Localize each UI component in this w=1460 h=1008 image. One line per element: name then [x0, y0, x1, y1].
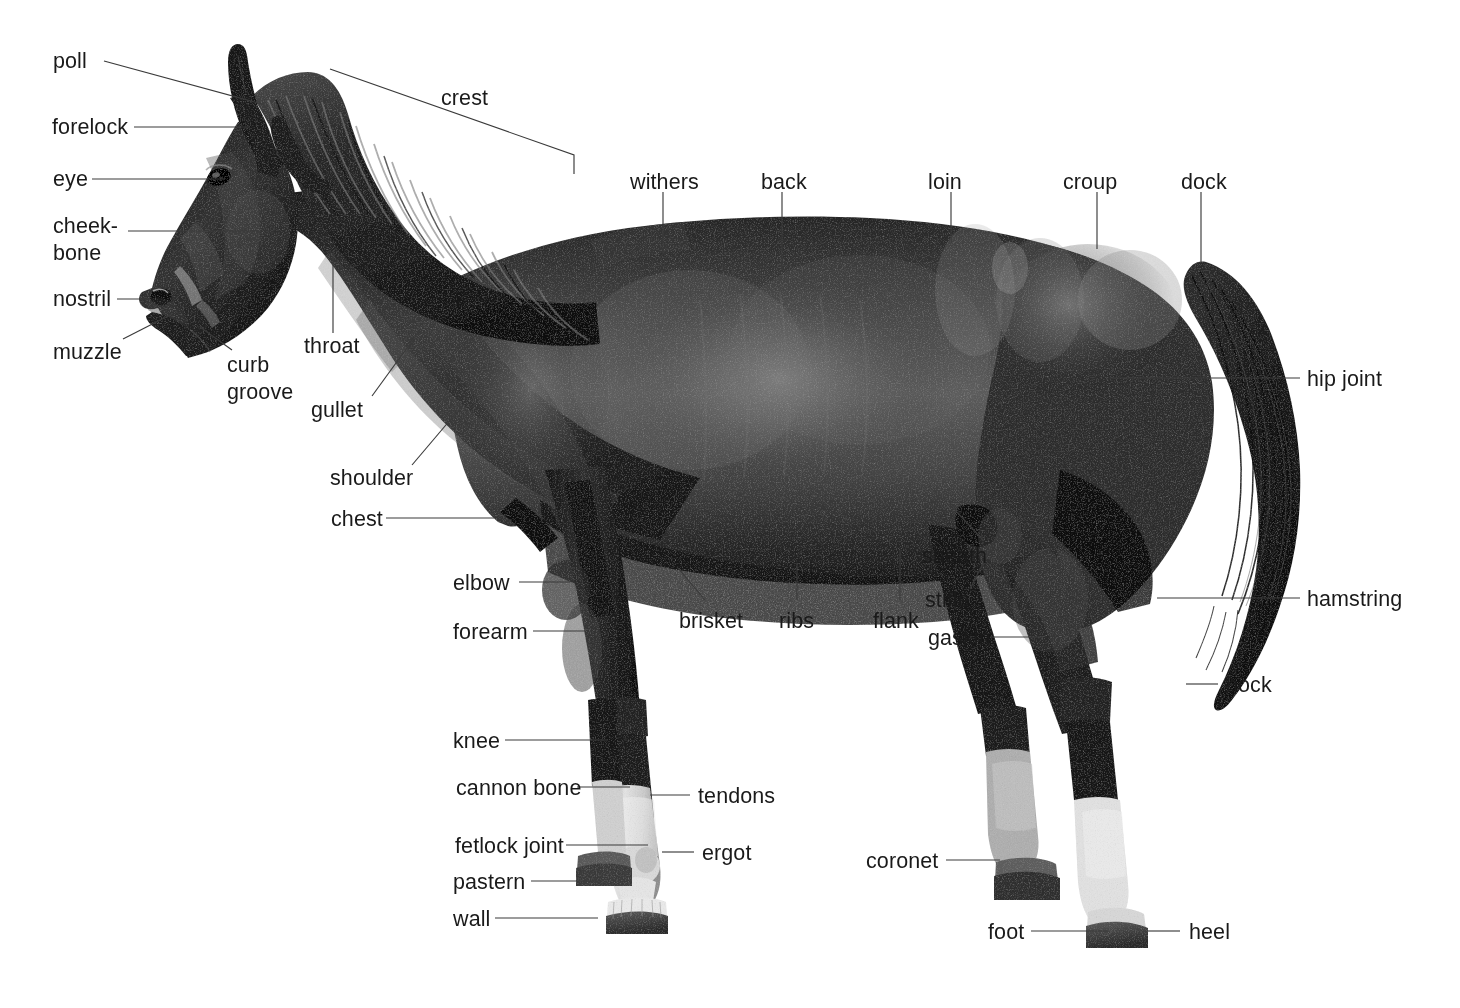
eye	[205, 166, 233, 189]
leader-muzzle	[123, 314, 172, 339]
sheath	[956, 504, 998, 546]
horse-body-group	[139, 44, 1300, 948]
barrel	[450, 216, 1208, 638]
label-dock: dock	[1181, 169, 1227, 195]
label-stifle: stifle	[925, 587, 970, 613]
neck	[243, 191, 700, 540]
off-foreleg	[564, 480, 614, 618]
label-poll: poll	[53, 48, 87, 74]
label-hock: hock	[1226, 672, 1272, 698]
near-cannon	[604, 734, 654, 821]
off-hind-hoof	[994, 858, 1060, 900]
leader-curb-groove	[200, 327, 232, 350]
label-gaskin: gaskin	[928, 625, 991, 651]
label-sheath: sheath	[922, 543, 987, 569]
cheek	[226, 190, 290, 274]
label-croup: croup	[1063, 169, 1117, 195]
hindquarters	[975, 236, 1214, 632]
label-forelock: forelock	[52, 114, 128, 140]
horse-anatomy-diagram: poll forelock eye cheek-bone nostril muz…	[0, 0, 1460, 1008]
label-flank: flank	[873, 608, 919, 634]
label-ribs: ribs	[779, 608, 814, 634]
near-hind-hoof	[1086, 908, 1148, 948]
shoulder-mass	[428, 300, 606, 528]
elbow	[542, 560, 590, 620]
label-forearm: forearm	[453, 619, 528, 645]
label-hamstring: hamstring	[1307, 586, 1402, 612]
near-fore-hoof	[606, 898, 668, 935]
off-fore-hoof	[576, 852, 632, 887]
label-hip-joint: hip joint	[1307, 366, 1382, 392]
label-shoulder: shoulder	[330, 465, 413, 491]
label-cheekbone-line1: cheek-	[53, 214, 118, 238]
ear-far	[271, 116, 334, 196]
near-hindleg	[1002, 548, 1108, 734]
near-knee	[598, 697, 648, 739]
label-fetlock-joint: fetlock joint	[455, 833, 564, 859]
label-eye: eye	[53, 166, 88, 192]
nostril	[150, 288, 171, 305]
label-pastern: pastern	[453, 869, 525, 895]
head	[139, 120, 298, 358]
label-curb-line1: curb	[227, 353, 269, 377]
leader-brisket	[677, 567, 705, 600]
label-chest: chest	[331, 506, 383, 532]
ear-near	[228, 44, 284, 174]
gaskin	[990, 520, 1098, 672]
tail	[1184, 262, 1301, 711]
label-loin: loin	[928, 169, 962, 195]
near-foreleg	[545, 466, 640, 716]
label-wall: wall	[453, 906, 490, 932]
leader-sheath	[955, 510, 984, 541]
label-nostril: nostril	[53, 286, 111, 312]
forelock	[230, 92, 279, 178]
label-ergot: ergot	[702, 840, 752, 866]
near-fore-sock	[606, 785, 661, 908]
near-hock	[1060, 677, 1112, 725]
mane	[252, 72, 600, 346]
label-coronet: coronet	[866, 848, 938, 874]
label-crest: crest	[441, 85, 488, 111]
label-back: back	[761, 169, 807, 195]
leader-gullet	[372, 330, 420, 396]
label-muzzle: muzzle	[53, 339, 122, 365]
leader-poll	[104, 61, 262, 104]
label-cheekbone-line2: bone	[53, 241, 101, 265]
label-throat: throat	[304, 333, 360, 359]
label-knee: knee	[453, 728, 500, 754]
label-cheekbone: cheek-bone	[53, 213, 118, 267]
rump-highlight	[992, 244, 1184, 416]
off-hind-sock	[986, 749, 1039, 872]
leader-shoulder	[412, 406, 462, 465]
near-hind-sock	[1074, 797, 1129, 922]
label-curb-line2: groove	[227, 380, 293, 404]
muzzle	[146, 312, 208, 356]
label-elbow: elbow	[453, 570, 510, 596]
label-brisket: brisket	[679, 608, 743, 634]
label-gullet: gullet	[311, 397, 363, 423]
brisket	[500, 498, 558, 552]
label-heel: heel	[1189, 919, 1230, 945]
label-foot: foot	[988, 919, 1024, 945]
label-cannon-bone: cannon bone	[456, 775, 581, 801]
label-curb-groove: curbgroove	[227, 352, 293, 406]
label-tendons: tendons	[698, 783, 775, 809]
label-withers: withers	[630, 169, 699, 195]
barrel-highlight	[590, 270, 1010, 530]
off-fore-sock	[592, 780, 626, 855]
